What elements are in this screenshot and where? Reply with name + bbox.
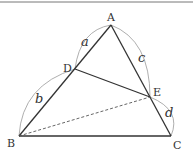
diagram-canvas: A B C D E a b c d <box>0 0 193 155</box>
segment-DE <box>75 69 150 97</box>
length-b: b <box>35 91 43 106</box>
label-D: D <box>63 62 72 75</box>
label-E: E <box>153 86 161 99</box>
label-A: A <box>106 11 116 24</box>
length-a: a <box>81 34 89 49</box>
label-B: B <box>7 137 15 150</box>
segment-AC <box>111 25 171 136</box>
label-C: C <box>173 139 181 152</box>
length-c: c <box>138 50 146 65</box>
triangle-diagram: A B C D E a b c d <box>0 0 193 155</box>
segment-AB <box>19 25 111 136</box>
length-d: d <box>165 105 173 120</box>
